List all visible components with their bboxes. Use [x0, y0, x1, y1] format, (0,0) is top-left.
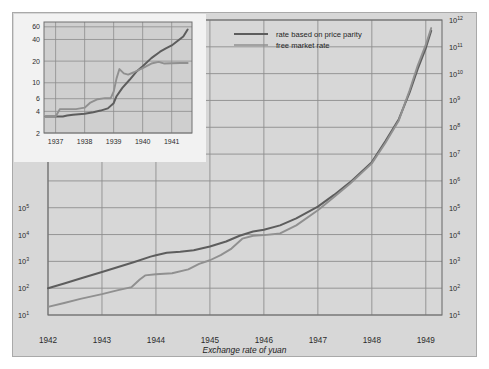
inset-y-tick-6: 6 — [36, 95, 40, 102]
x-tick-1942: 1942 — [39, 336, 58, 345]
inset-x-tick-1939: 1939 — [106, 138, 122, 145]
x-tick-1947: 1947 — [309, 336, 328, 345]
y-tick-right-10^9: 109 — [449, 95, 460, 105]
figure-root: 101102103104105 101102103104105106107108… — [0, 0, 489, 369]
inset-x-tick-1940: 1940 — [135, 138, 151, 145]
inset-x-tick-1937: 1937 — [48, 138, 64, 145]
inset-y-axis-labels: 60402010642 — [32, 23, 40, 136]
x-tick-1948: 1948 — [363, 336, 382, 345]
inset-y-tick-4: 4 — [36, 108, 40, 115]
inset-y-tick-20: 20 — [32, 58, 40, 65]
legend-label-2: free market rate — [276, 41, 330, 50]
y-tick-right-10^7: 107 — [449, 149, 460, 159]
main-y-axis-labels-right: 101102103104105106107108109101010111012 — [449, 15, 463, 320]
x-tick-1944: 1944 — [147, 336, 166, 345]
y-tick-right-10^4: 104 — [449, 230, 460, 240]
main-y-axis-labels-left: 101102103104105 — [18, 203, 29, 320]
y-tick-left-10^2: 102 — [18, 283, 29, 293]
y-tick-right-10^11: 1011 — [449, 42, 463, 52]
legend-label-1: rate based on price parity — [276, 30, 362, 39]
inset-chart-svg: 60402010642 19371938193919401941 — [14, 14, 206, 162]
inset-y-tick-40: 40 — [32, 36, 40, 43]
inset-x-axis-labels: 19371938193919401941 — [48, 138, 180, 145]
inset-y-tick-10: 10 — [32, 79, 40, 86]
x-tick-1946: 1946 — [255, 336, 274, 345]
y-tick-right-10^12: 1012 — [449, 15, 463, 25]
y-tick-right-10^10: 1010 — [449, 69, 463, 79]
inset-x-tick-1941: 1941 — [164, 138, 180, 145]
y-tick-right-10^5: 105 — [449, 203, 460, 213]
y-tick-right-10^8: 108 — [449, 122, 460, 132]
x-tick-1945: 1945 — [201, 336, 220, 345]
x-tick-1943: 1943 — [93, 336, 112, 345]
y-tick-left-10^3: 103 — [18, 256, 29, 266]
inset-y-tick-60: 60 — [32, 23, 40, 30]
y-tick-right-10^6: 106 — [449, 176, 460, 186]
inset-y-tick-2: 2 — [36, 130, 40, 137]
y-tick-left-10^1: 101 — [18, 310, 29, 320]
figure-caption: Exchange rate of yuan — [0, 345, 489, 355]
inset-x-tick-1938: 1938 — [77, 138, 93, 145]
y-tick-right-10^1: 101 — [449, 310, 460, 320]
y-tick-right-10^2: 102 — [449, 283, 460, 293]
y-tick-left-10^5: 105 — [18, 203, 29, 213]
y-tick-right-10^3: 103 — [449, 256, 460, 266]
x-tick-1949: 1949 — [417, 336, 436, 345]
y-tick-left-10^4: 104 — [18, 230, 29, 240]
